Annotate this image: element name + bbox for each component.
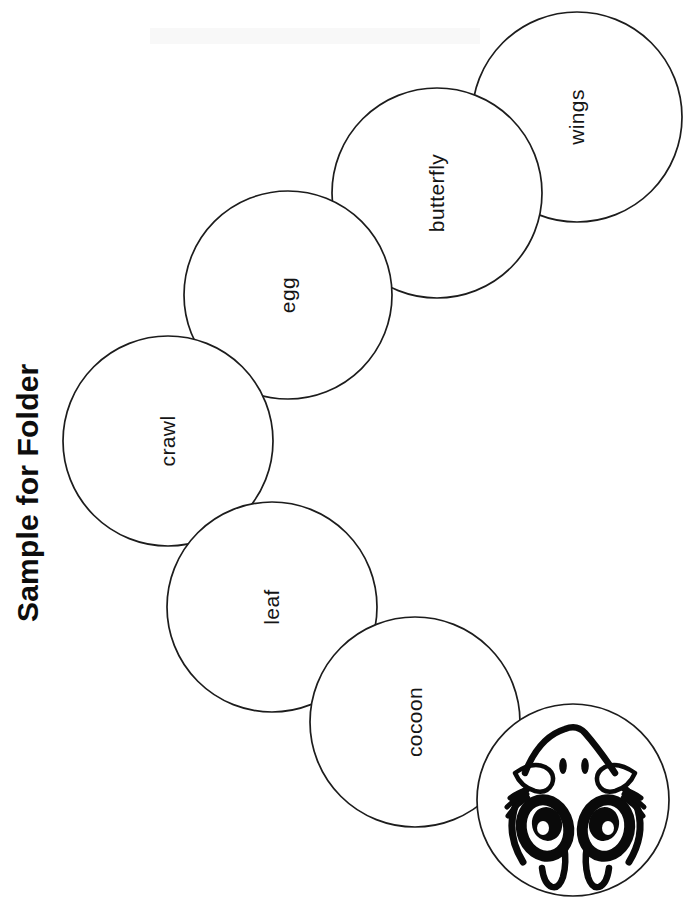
segment-label-cocoon: cocoon bbox=[403, 687, 426, 757]
page-title: Sample for Folder bbox=[11, 363, 44, 622]
segment-label-wings: wings bbox=[565, 89, 588, 146]
segment-label-leaf: leaf bbox=[260, 589, 283, 624]
page-title-group: Sample for Folder bbox=[11, 363, 44, 622]
segment-label-crawl: crawl bbox=[156, 415, 179, 466]
segment-face[interactable] bbox=[477, 704, 669, 896]
nostril-upper bbox=[559, 758, 567, 774]
segment-label-butterfly: butterfly bbox=[425, 154, 448, 232]
scan-artifact bbox=[150, 28, 480, 44]
segment-label-egg: egg bbox=[276, 277, 299, 313]
worksheet-page: Sample for Folder wings butterfly egg bbox=[0, 0, 688, 907]
worksheet-canvas: Sample for Folder wings butterfly egg bbox=[0, 0, 688, 907]
nostril-lower bbox=[581, 758, 589, 774]
